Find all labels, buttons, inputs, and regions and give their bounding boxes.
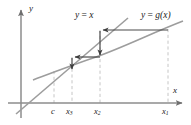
function-curve-label: y = g(x)	[141, 11, 171, 21]
tick-x3-sub: 3	[70, 110, 73, 116]
identity-label-eq: =	[79, 10, 89, 20]
tick-label-x1: x1	[162, 107, 169, 117]
y-axis-label: y	[29, 4, 33, 13]
tick-label-x2: x2	[94, 107, 101, 117]
cobweb-fixed-point-figure: y x y = x y = g(x) c x3 x2 x1	[0, 0, 191, 125]
tick-label-c: c	[51, 107, 55, 116]
identity-label-rhs: x	[89, 10, 93, 20]
x-axis-label: x	[173, 86, 177, 95]
cobweb-iteration-path	[72, 30, 168, 69]
tick-label-x3: x3	[66, 107, 73, 117]
function-label-eq: =	[145, 10, 155, 20]
tick-x2-sub: 2	[98, 110, 101, 116]
function-label-rhs: g(x)	[155, 10, 170, 20]
tick-x1-sub: 1	[166, 110, 169, 116]
identity-line-label: y = x	[75, 11, 94, 21]
